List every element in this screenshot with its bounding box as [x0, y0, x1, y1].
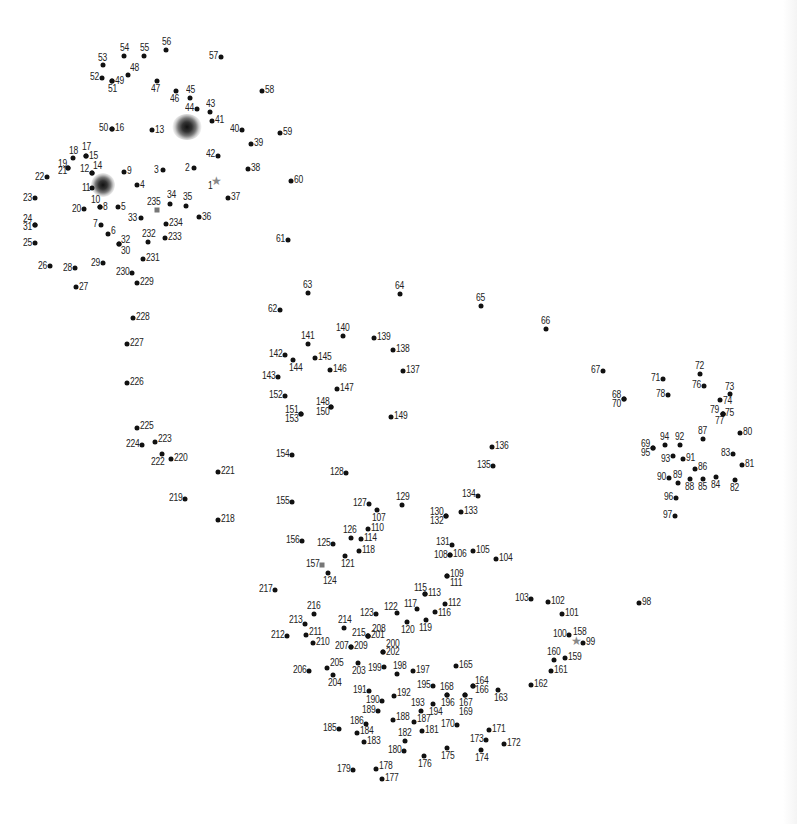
dot-number-label: 124 — [323, 576, 336, 586]
dot-number-label: 108 — [434, 550, 447, 560]
dot-number-label: 56 — [162, 37, 171, 47]
dot-number-label: 150 — [316, 407, 329, 417]
puzzle-dot — [140, 443, 145, 448]
dot-number-label: 173 — [470, 734, 483, 744]
puzzle-dot — [491, 464, 496, 469]
puzzle-dot — [637, 601, 642, 606]
puzzle-dot — [146, 240, 151, 245]
dot-number-label: 184 — [360, 726, 373, 736]
dot-number-label: 82 — [730, 483, 739, 493]
puzzle-dot — [240, 128, 245, 133]
puzzle-dot — [661, 377, 666, 382]
dot-number-label: 176 — [418, 759, 431, 769]
puzzle-dot — [183, 497, 188, 502]
puzzle-dot — [552, 658, 557, 663]
puzzle-dot — [290, 500, 295, 505]
puzzle-dot — [303, 622, 308, 627]
dot-number-label: 100 — [553, 629, 566, 639]
puzzle-dot — [101, 261, 106, 266]
puzzle-dot — [328, 368, 333, 373]
puzzle-dot — [380, 699, 385, 704]
dot-number-label: 219 — [169, 493, 182, 503]
dot-number-label: 160 — [547, 647, 560, 657]
dot-number-label: 197 — [416, 665, 429, 675]
dot-number-label: 94 — [660, 432, 669, 442]
puzzle-dot — [168, 202, 173, 207]
puzzle-dot — [381, 650, 386, 655]
puzzle-dot — [667, 476, 672, 481]
puzzle-dot — [444, 514, 449, 519]
puzzle-dot — [135, 183, 140, 188]
dot-number-label: 161 — [554, 665, 567, 675]
puzzle-dot — [400, 503, 405, 508]
dot-number-label: 65 — [476, 293, 485, 303]
dot-number-label: 136 — [495, 441, 508, 451]
dot-number-label: 27 — [79, 282, 88, 292]
puzzle-dot — [210, 119, 215, 124]
dot-number-label: 182 — [398, 728, 411, 738]
puzzle-dot — [372, 336, 377, 341]
dot-number-label: 89 — [673, 470, 682, 480]
dot-number-label: 14 — [93, 161, 102, 171]
puzzle-dot — [164, 48, 169, 53]
puzzle-dot — [420, 729, 425, 734]
dot-number-label: 118 — [362, 545, 375, 555]
dot-number-label: 152 — [269, 390, 282, 400]
dot-number-label: 180 — [388, 745, 401, 755]
puzzle-dot — [300, 539, 305, 544]
puzzle-dot — [351, 768, 356, 773]
dot-number-label: 131 — [436, 537, 449, 547]
puzzle-dot — [150, 128, 155, 133]
dot-number-label: 214 — [338, 615, 351, 625]
puzzle-dot — [549, 669, 554, 674]
end-square-icon — [320, 563, 325, 568]
dot-number-label: 99 — [586, 637, 595, 647]
dot-number-label: 196 — [441, 698, 454, 708]
dot-number-label: 205 — [330, 658, 343, 668]
puzzle-dot — [389, 415, 394, 420]
dot-number-label: 217 — [259, 584, 272, 594]
puzzle-dot — [135, 426, 140, 431]
dot-number-label: 115 — [414, 583, 427, 593]
puzzle-dot — [676, 481, 681, 486]
dot-number-label: 227 — [130, 338, 143, 348]
dot-number-label: 228 — [136, 312, 149, 322]
puzzle-dot — [71, 156, 76, 161]
puzzle-dot — [693, 467, 698, 472]
dot-number-label: 51 — [108, 84, 117, 94]
dot-number-label: 170 — [441, 719, 454, 729]
dot-number-label: 159 — [568, 652, 581, 662]
puzzle-dot — [367, 502, 372, 507]
puzzle-dot — [349, 645, 354, 650]
puzzle-dot — [82, 207, 87, 212]
puzzle-dot — [106, 232, 111, 237]
puzzle-dot — [738, 431, 743, 436]
puzzle-dot — [260, 89, 265, 94]
dot-number-label: 76 — [692, 380, 701, 390]
puzzle-dot — [33, 223, 38, 228]
dot-number-label: 191 — [353, 685, 366, 695]
puzzle-dot — [546, 600, 551, 605]
puzzle-dot — [563, 656, 568, 661]
dot-number-label: 12 — [80, 164, 89, 174]
puzzle-dot — [188, 96, 193, 101]
puzzle-dot — [529, 597, 534, 602]
dot-number-label: 171 — [492, 724, 505, 734]
puzzle-dot — [74, 285, 79, 290]
dot-number-label: 37 — [231, 192, 240, 202]
puzzle-dot — [349, 536, 354, 541]
dot-number-label: 78 — [656, 389, 665, 399]
puzzle-dot — [459, 510, 464, 515]
dot-number-label: 226 — [130, 377, 143, 387]
dot-number-label: 63 — [303, 280, 312, 290]
dot-number-label: 114 — [364, 533, 377, 543]
dot-number-label: 220 — [174, 453, 187, 463]
puzzle-dot — [337, 727, 342, 732]
dot-number-label: 211 — [309, 627, 322, 637]
puzzle-dot — [192, 166, 197, 171]
dot-number-label: 93 — [661, 454, 670, 464]
dot-number-label: 189 — [362, 705, 375, 715]
dot-number-label: 234 — [169, 218, 182, 228]
puzzle-dot — [33, 241, 38, 246]
puzzle-dot — [740, 463, 745, 468]
